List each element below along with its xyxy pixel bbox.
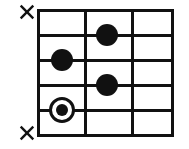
x-mark-bottom-icon xyxy=(18,124,36,142)
fret-line-1 xyxy=(84,9,87,137)
dot-fret1-string2 xyxy=(51,49,73,71)
string-line-5 xyxy=(37,134,174,137)
dot-fret2-string1 xyxy=(96,24,118,46)
fret-line-0 xyxy=(37,9,40,137)
chord-diagram xyxy=(0,0,189,149)
fret-line-3 xyxy=(171,9,174,137)
chord-diagram-canvas xyxy=(0,0,189,149)
dot-fret1-string4-root-center xyxy=(56,104,68,116)
string-line-0 xyxy=(37,9,174,12)
fret-line-2 xyxy=(131,9,134,137)
dot-fret1-string4-root xyxy=(49,97,75,123)
x-mark-top-icon xyxy=(18,3,36,21)
dot-fret2-string3 xyxy=(96,74,118,96)
